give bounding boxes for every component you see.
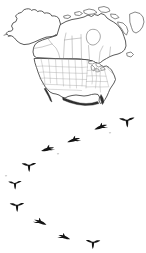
goose-flock: [0, 0, 146, 253]
goose-8: [33, 217, 48, 226]
goose-13: [5, 176, 8, 177]
goose-9: [57, 232, 71, 240]
goose-7: [10, 203, 25, 212]
goose-2: [94, 122, 109, 130]
flock-svg: [0, 0, 146, 253]
goose-6: [8, 181, 22, 190]
goose-10: [86, 240, 101, 249]
goose-4: [41, 144, 55, 151]
goose-11: [109, 133, 112, 134]
image-canvas: [0, 0, 146, 253]
goose-1: [119, 117, 135, 128]
goose-12: [57, 154, 60, 155]
birds-group: [5, 117, 135, 249]
goose-5: [22, 163, 37, 172]
goose-3: [67, 135, 82, 143]
